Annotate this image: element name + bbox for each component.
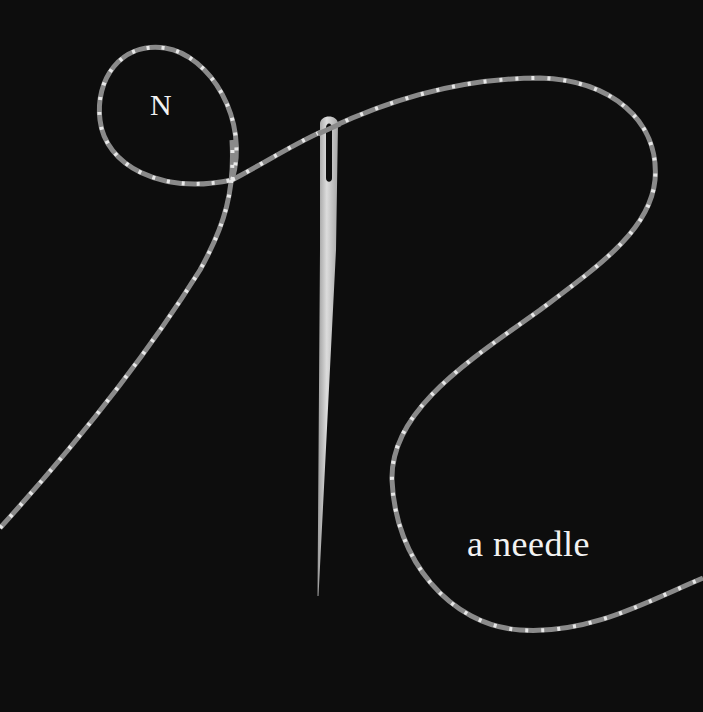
thread bbox=[0, 47, 703, 630]
caption: a needle bbox=[467, 526, 590, 562]
initial-letter: N bbox=[150, 90, 172, 120]
needle bbox=[318, 117, 341, 597]
illustration-page: N a needle bbox=[0, 0, 703, 712]
thread-and-needle-artwork bbox=[0, 0, 703, 712]
